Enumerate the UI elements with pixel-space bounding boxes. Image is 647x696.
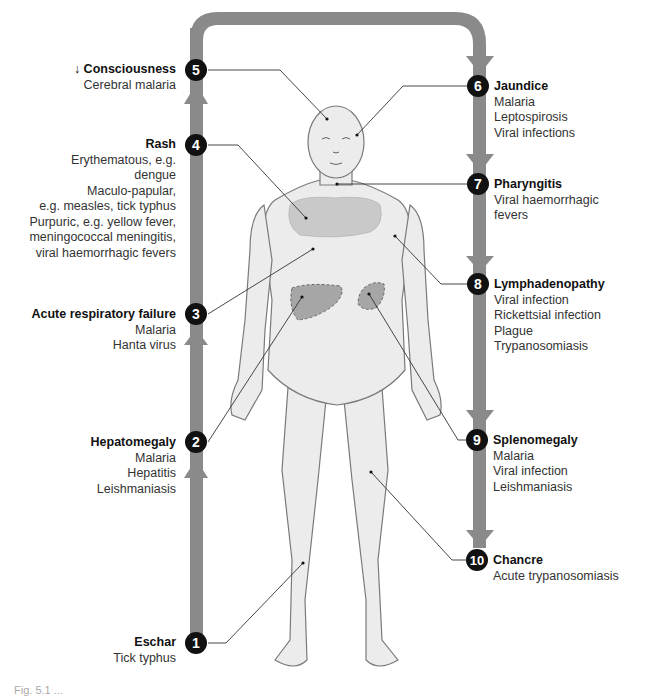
finding-title: Eschar bbox=[113, 635, 176, 651]
finding-title: Acute respiratory failure bbox=[32, 307, 177, 323]
finding-jaundice: Jaundice Malaria Leptospirosis Viral inf… bbox=[494, 79, 575, 141]
finding-item: Rickettsial infection bbox=[494, 308, 605, 324]
rash-area bbox=[289, 197, 382, 237]
badge-10: 10 bbox=[466, 549, 488, 571]
finding-item: dengue bbox=[29, 168, 176, 184]
finding-item: Cerebral malaria bbox=[74, 78, 176, 94]
badge-2: 2 bbox=[185, 431, 207, 453]
finding-item: e.g. measles, tick typhus bbox=[29, 199, 176, 215]
svg-text:9: 9 bbox=[473, 432, 481, 448]
finding-eschar: Eschar Tick typhus bbox=[113, 635, 176, 666]
finding-title: ↓ Consciousness bbox=[74, 62, 176, 78]
finding-item: Leishmaniasis bbox=[493, 480, 578, 496]
finding-title: Rash bbox=[29, 137, 176, 153]
finding-item: fevers bbox=[494, 208, 599, 224]
finding-item: Malaria bbox=[493, 449, 578, 465]
finding-item: Trypanosomiasis bbox=[494, 339, 605, 355]
finding-pharyngitis: Pharyngitis Viral haemorrhagic fevers bbox=[494, 177, 599, 224]
finding-item: viral haemorrhagic fevers bbox=[29, 246, 176, 262]
finding-item: Viral infections bbox=[494, 126, 575, 142]
finding-item: Malaria bbox=[91, 451, 176, 467]
svg-text:10: 10 bbox=[470, 553, 484, 568]
finding-item: Leptospirosis bbox=[494, 110, 575, 126]
finding-item: Acute trypanosomiasis bbox=[493, 569, 619, 585]
finding-splenomegaly: Splenomegaly Malaria Viral infection Lei… bbox=[493, 433, 578, 495]
finding-title: Pharyngitis bbox=[494, 177, 599, 193]
badge-6: 6 bbox=[467, 75, 489, 97]
finding-item: Maculo-papular, bbox=[29, 184, 176, 200]
finding-title: Splenomegaly bbox=[493, 433, 578, 449]
svg-text:7: 7 bbox=[474, 176, 482, 192]
finding-acute-respiratory-failure: Acute respiratory failure Malaria Hanta … bbox=[32, 307, 177, 354]
human-figure bbox=[231, 106, 441, 666]
badge-4: 4 bbox=[185, 134, 207, 156]
finding-consciousness: ↓ Consciousness Cerebral malaria bbox=[74, 62, 176, 93]
finding-item: Tick typhus bbox=[113, 651, 176, 667]
finding-item: Malaria bbox=[32, 323, 177, 339]
finding-item: Viral infection bbox=[493, 464, 578, 480]
finding-title: Chancre bbox=[493, 553, 619, 569]
finding-hepatomegaly: Hepatomegaly Malaria Hepatitis Leishmani… bbox=[91, 435, 176, 497]
svg-text:5: 5 bbox=[192, 62, 200, 78]
finding-item: Erythematous, e.g. bbox=[29, 153, 176, 169]
badge-7: 7 bbox=[467, 173, 489, 195]
finding-item: Viral haemorrhagic bbox=[494, 193, 599, 209]
finding-title: Lymphadenopathy bbox=[494, 277, 605, 293]
badge-1: 1 bbox=[185, 632, 207, 654]
badge-5: 5 bbox=[185, 59, 207, 81]
svg-text:8: 8 bbox=[474, 276, 482, 292]
finding-item: Purpuric, e.g. yellow fever, bbox=[29, 215, 176, 231]
finding-item: Viral infection bbox=[494, 293, 605, 309]
svg-text:4: 4 bbox=[192, 137, 200, 153]
finding-item: Leishmaniasis bbox=[91, 482, 176, 498]
svg-text:2: 2 bbox=[192, 434, 200, 450]
svg-text:3: 3 bbox=[192, 306, 200, 322]
finding-title: Hepatomegaly bbox=[91, 435, 176, 451]
finding-rash: Rash Erythematous, e.g. dengue Maculo-pa… bbox=[29, 137, 176, 261]
badge-9: 9 bbox=[466, 429, 488, 451]
finding-item: Hanta virus bbox=[32, 338, 177, 354]
finding-item: Plague bbox=[494, 324, 605, 340]
finding-item: Hepatitis bbox=[91, 466, 176, 482]
badge-8: 8 bbox=[467, 273, 489, 295]
finding-lymphadenopathy: Lymphadenopathy Viral infection Ricketts… bbox=[494, 277, 605, 355]
finding-title: Jaundice bbox=[494, 79, 575, 95]
finding-item: meningococcal meningitis, bbox=[29, 230, 176, 246]
finding-item: Malaria bbox=[494, 95, 575, 111]
finding-chancre: Chancre Acute trypanosomiasis bbox=[493, 553, 619, 584]
badge-3: 3 bbox=[185, 303, 207, 325]
svg-text:1: 1 bbox=[192, 635, 200, 651]
figure-caption: Fig. 5.1 ... bbox=[14, 684, 63, 696]
svg-text:6: 6 bbox=[474, 78, 482, 94]
